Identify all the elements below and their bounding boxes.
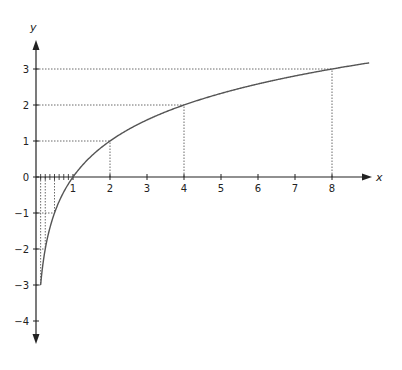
x-axis-arrow-icon — [362, 174, 372, 181]
y-tick-label: −2 — [14, 244, 29, 255]
y-tick-label: 2 — [23, 100, 29, 111]
log-curve — [41, 63, 370, 285]
x-tick-label: 6 — [255, 183, 261, 194]
y-axis-arrow-down-icon — [33, 334, 40, 344]
y-tick-label: 0 — [23, 172, 29, 183]
x-tick-label: 1 — [70, 183, 76, 194]
axes — [33, 40, 373, 344]
x-tick-label: 3 — [144, 183, 150, 194]
ticks — [33, 69, 332, 321]
y-tick-label: 3 — [23, 64, 29, 75]
y-tick-label: 1 — [23, 136, 29, 147]
y-axis-label: y — [29, 21, 37, 34]
x-tick-label: 8 — [329, 183, 335, 194]
x-tick-label: 4 — [181, 183, 187, 194]
log-chart: 123456783210−1−2−3−4 x y — [0, 0, 402, 370]
x-tick-label: 7 — [292, 183, 298, 194]
x-tick-label: 2 — [107, 183, 113, 194]
x-axis-label: x — [375, 171, 383, 184]
y-axis-arrow-up-icon — [33, 40, 40, 50]
y-tick-label: −4 — [14, 316, 29, 327]
y-tick-label: −1 — [14, 208, 29, 219]
x-tick-label: 5 — [218, 183, 224, 194]
y-tick-label: −3 — [14, 280, 29, 291]
